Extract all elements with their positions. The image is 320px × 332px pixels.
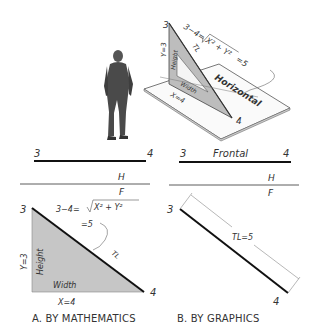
view-b-top-point-4: 4 [283,148,289,159]
view-a-h-label: H [118,172,125,182]
view-a-y-label: Y=3 [20,253,29,270]
view-a-equation-left: 3−4= [56,205,80,214]
view-a-top-point-4: 4 [147,148,153,159]
view-b-fold-line: H F [169,173,299,198]
view-a-height-label: Height [36,248,45,275]
true-length-figure: 3 4 3−4= X² + Y² =5 TL Y=3 Height Width … [0,0,320,332]
view-b-top: 3 Frontal 4 [179,148,291,162]
view-a-caption: A. BY MATHEMATICS [32,313,136,324]
view-b-caption: B. BY GRAPHICS [177,313,260,324]
view-a-equation-radicand: X² + Y² [93,203,123,212]
view-a-f-label: F [119,187,125,197]
view-b-front-point-4: 4 [273,296,279,307]
view-b-f-label: F [268,188,274,198]
view-a-top-point-3: 3 [34,148,40,159]
tl-label: TL [190,43,201,54]
view-a-equation-result: =5 [81,220,93,229]
view-a-width-label: Width [53,281,76,290]
human-figure-icon [104,50,133,140]
view-b-frontal-label: Frontal [213,148,248,159]
view-a-front-point-3: 3 [20,204,26,215]
pictorial-view: 3 4 3−4= X² + Y² =5 TL Y=3 Height Width … [104,20,290,141]
view-a-top: 3 4 [34,148,153,161]
view-a-x-label: X=4 [57,298,75,307]
view-a-tl-label: TL [110,249,121,260]
view-b-front: TL=5 3 4 B. BY GRAPHICS [167,193,300,324]
view-b-front-point-3: 3 [167,204,173,215]
figure-svg: 3 4 3−4= X² + Y² =5 TL Y=3 Height Width … [0,0,320,332]
view-b-top-point-3: 3 [180,148,186,159]
equation-result: =5 [235,55,250,69]
point-3-label: 3 [163,20,169,30]
view-a-front-point-4: 4 [150,287,156,298]
view-a-front: 3 4 3−4= X² + Y² =5 TL Y=3 Height Width … [20,200,156,324]
equation-radicand: X² + Y² [203,35,234,59]
point-4-label: 4 [236,116,242,126]
view-a-fold-line: H F [20,172,150,197]
view-b-h-label: H [268,173,275,183]
y-label: Y=3 [160,42,168,57]
view-b-tl-label: TL=5 [232,233,253,242]
